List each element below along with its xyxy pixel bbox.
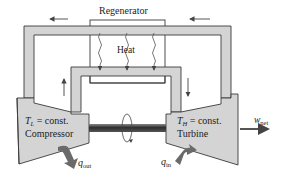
turbine-temperature-label: TH = const. [177,116,222,128]
work-net-label: wnet [254,116,268,127]
compressor-label: Compressor [25,129,73,139]
heat-in-label: qin [161,157,171,169]
ericsson-cycle-diagram [0,0,289,177]
inner-pipe [71,67,181,112]
heat-label: Heat [117,46,135,56]
regenerator-label: Regenerator [99,6,148,16]
heat-out-arrow-icon [58,146,78,169]
heat-out-label: qout [78,158,91,170]
turbine-label: Turbine [177,129,208,139]
shaft [89,124,166,132]
compressor-temperature-label: TL = const. [25,116,68,128]
